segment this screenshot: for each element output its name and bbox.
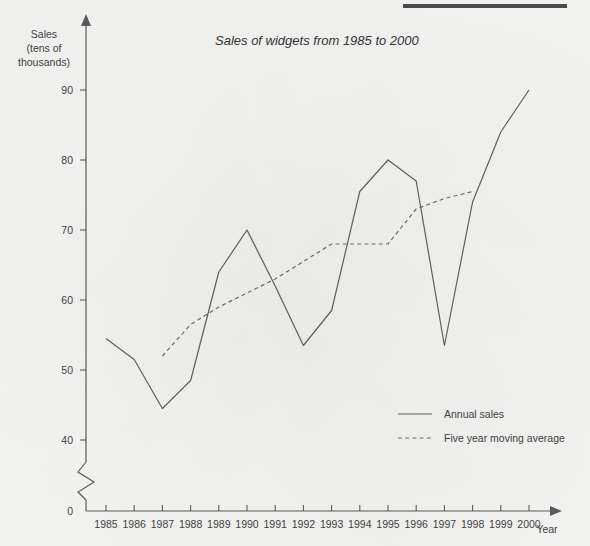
x-tick-label-1991: 1991 <box>264 518 288 530</box>
y-tick-label-40: 40 <box>61 434 73 446</box>
x-tick-label-1995: 1995 <box>376 518 400 530</box>
line-chart: Sales (tens of thousands) Sales of widge… <box>0 0 590 546</box>
y-tick-label-60: 60 <box>61 294 73 306</box>
x-axis-arrowhead <box>550 506 562 516</box>
y-tick-label-50: 50 <box>61 364 73 376</box>
y-axis-label-line-1: Sales <box>31 28 57 40</box>
x-tick-label-1998: 1998 <box>461 518 485 530</box>
y-axis-label-line-2: (tens of <box>26 42 61 54</box>
x-tick-label-1985: 1985 <box>94 518 118 530</box>
x-tick-label-1999: 1999 <box>489 518 513 530</box>
y-tick-label-80: 80 <box>61 154 73 166</box>
x-tick-label-1987: 1987 <box>151 518 175 530</box>
y-tick-marks <box>80 90 86 440</box>
y-tick-label-70: 70 <box>61 224 73 236</box>
chart-legend: Annual sales Five year moving average <box>398 408 565 444</box>
x-tick-labels: 1985198619871988198919901991199219931994… <box>94 518 541 530</box>
x-tick-label-1990: 1990 <box>235 518 259 530</box>
legend-label-five-year-moving-average: Five year moving average <box>444 432 565 444</box>
x-axis-label: Year <box>536 523 558 535</box>
y-axis-label-line-3: thousands) <box>18 56 70 68</box>
x-tick-label-1988: 1988 <box>179 518 203 530</box>
x-tick-label-1993: 1993 <box>320 518 344 530</box>
y-tick-label-0: 0 <box>67 505 73 517</box>
series-line-annual-sales <box>106 90 529 409</box>
series-line-five-year-moving-average <box>162 192 472 357</box>
y-tick-labels: 90 80 70 60 50 40 0 <box>61 84 73 517</box>
legend-label-annual-sales: Annual sales <box>444 408 504 420</box>
x-tick-label-1997: 1997 <box>433 518 457 530</box>
y-tick-label-90: 90 <box>61 84 73 96</box>
x-tick-label-1992: 1992 <box>292 518 316 530</box>
x-tick-label-1994: 1994 <box>348 518 372 530</box>
x-tick-label-1996: 1996 <box>405 518 429 530</box>
x-tick-label-1989: 1989 <box>207 518 231 530</box>
x-tick-label-1986: 1986 <box>123 518 147 530</box>
chart-title: Sales of widgets from 1985 to 2000 <box>215 33 420 48</box>
y-axis-break-zigzag <box>78 462 94 500</box>
x-tick-marks <box>106 505 529 511</box>
chart-page: Sales (tens of thousands) Sales of widge… <box>0 0 590 546</box>
